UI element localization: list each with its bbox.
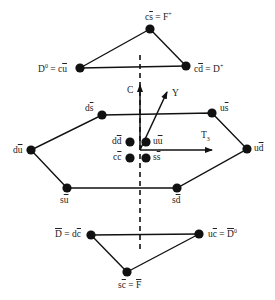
c-axis-label: C xyxy=(127,86,133,96)
label-du: du xyxy=(13,146,23,156)
label-uu: uu xyxy=(153,137,163,147)
label-D0: D0 = cu xyxy=(38,63,67,75)
node-Dplus xyxy=(181,61,190,70)
node-Fplus xyxy=(145,24,154,33)
top-triangle xyxy=(80,29,186,68)
label-us: us xyxy=(220,104,228,114)
bottom-triangle xyxy=(91,234,199,272)
node-sd xyxy=(172,183,181,192)
label-D0bar: uc = D0 xyxy=(208,228,237,240)
label-ud: ud xyxy=(254,144,264,154)
label-sd: sd xyxy=(172,196,180,206)
label-Fbar: sc = F xyxy=(118,281,141,291)
node-ds xyxy=(97,110,106,119)
node-ud xyxy=(242,144,251,153)
node-ss xyxy=(141,153,150,162)
label-dd: dd xyxy=(112,137,122,147)
node-du xyxy=(26,145,35,154)
middle-hexagon xyxy=(31,113,247,188)
label-su: su xyxy=(60,196,68,206)
y-axis-label: Y xyxy=(172,89,179,99)
node-su xyxy=(62,183,71,192)
node-D0bar xyxy=(194,229,203,238)
node-cc xyxy=(125,153,134,162)
label-ss: ss xyxy=(153,153,160,163)
label-ds: ds xyxy=(85,104,93,114)
node-uu xyxy=(141,137,150,146)
node-dd xyxy=(125,137,134,146)
meson-weight-diagram xyxy=(0,0,275,300)
label-Fplus: cs = F+ xyxy=(145,11,172,23)
node-Fbar xyxy=(122,267,131,276)
label-Dplus: cd = D+ xyxy=(194,63,223,75)
label-cc: cc xyxy=(113,153,121,163)
label-Dbar: D = dc xyxy=(55,230,81,240)
node-us xyxy=(207,108,216,117)
node-Dbar xyxy=(86,230,95,239)
t3-axis-label: T3 xyxy=(201,131,210,142)
node-D0 xyxy=(75,63,84,72)
